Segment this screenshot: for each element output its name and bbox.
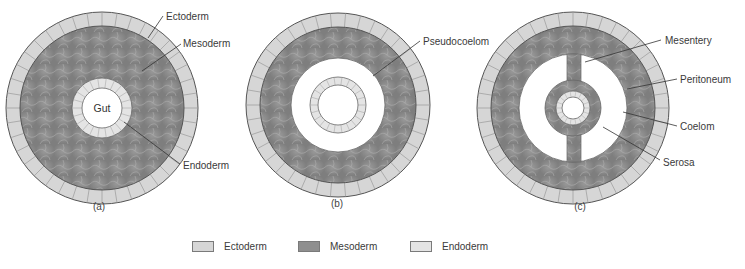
mesentery-ventral [567,132,581,162]
mesentery-label: Mesentery [665,35,712,46]
legend-label-mesoderm: Mesoderm [330,241,377,252]
peritoneum-label: Peritoneum [680,74,731,85]
mesentery-dorsal [567,54,581,84]
pseudocoelom-label: Pseudocoelom [423,36,489,47]
caption-c: (c) [574,201,586,212]
gut-cavity [562,97,584,119]
endoderm-label: Endoderm [183,160,229,171]
body-plan-diagrams: Gut Ectoderm Mesoderm Endoderm (a) Pseud… [0,0,745,240]
caption-a: (a) [93,201,105,212]
mesoderm-swatch [298,241,320,252]
legend: Ectoderm Mesoderm Endoderm [0,241,745,259]
diagram-pseudocoelomate: Pseudocoelom (b) [246,13,489,209]
ectoderm-swatch [192,241,214,252]
gut-label: Gut [94,102,111,114]
legend-label-ectoderm: Ectoderm [224,241,267,252]
diagram-acoelomate: Gut Ectoderm Mesoderm Endoderm (a) [6,11,230,212]
diagram-coelomate: Mesentery Peritoneum Coelom Serosa (c) [477,12,731,212]
legend-item-ectoderm: Ectoderm [192,241,267,252]
legend-item-mesoderm: Mesoderm [298,241,377,252]
coelom-label: Coelom [680,121,714,132]
gut-cavity [318,85,358,125]
serosa-label: Serosa [663,157,695,168]
legend-item-endoderm: Endoderm [410,241,488,252]
ectoderm-label: Ectoderm [166,11,209,22]
legend-label-endoderm: Endoderm [442,241,488,252]
endoderm-swatch [410,241,432,252]
caption-b: (b) [331,198,343,209]
mesoderm-label: Mesoderm [183,38,230,49]
